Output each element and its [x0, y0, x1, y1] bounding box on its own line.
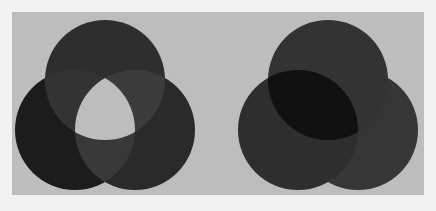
right-venn-diagram — [238, 20, 418, 190]
venn-figure — [0, 0, 436, 211]
left-venn-diagram — [15, 20, 195, 190]
